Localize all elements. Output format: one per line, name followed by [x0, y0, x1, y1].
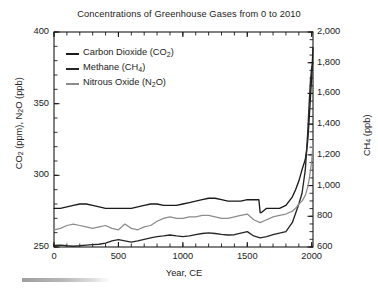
scan-artifact-bar [22, 278, 110, 282]
y-left-tick-label: 300 [9, 169, 49, 179]
y-right-tick-label: 2,000 [317, 26, 363, 36]
y-right-tick-label: 1,200 [317, 149, 363, 159]
legend-color-swatch [66, 53, 79, 55]
y-right-tick-label: 600 [317, 241, 363, 251]
y-left-tick-label: 250 [9, 241, 49, 251]
y-right-tick-label: 1,800 [317, 57, 363, 67]
y-axis-right-label: CH4 (ppb) [362, 80, 373, 190]
legend-item-label: Nitrous Oxide (N2O) [83, 77, 166, 88]
x-axis-label: Year, CE [54, 268, 314, 278]
x-tick-label: 2000 [292, 251, 332, 261]
x-tick-label: 1500 [227, 251, 267, 261]
y-right-tick-label: 1,400 [317, 118, 363, 128]
y-right-tick-label: 1,000 [317, 180, 363, 190]
legend-color-swatch [66, 83, 79, 85]
chart-title: Concentrations of Greenhouse Gases from … [0, 9, 378, 19]
legend-color-swatch [66, 68, 79, 70]
legend-item-label: Methane (CH4) [83, 62, 145, 73]
y-left-tick-label: 400 [9, 26, 49, 36]
legend-item-label: Carbon Dioxide (CO2) [83, 47, 174, 58]
y-right-tick-label: 1,600 [317, 87, 363, 97]
y-left-tick-label: 350 [9, 98, 49, 108]
x-tick-label: 500 [98, 251, 138, 261]
x-tick-label: 0 [34, 251, 74, 261]
x-tick-label: 1000 [163, 251, 203, 261]
y-right-tick-label: 800 [317, 210, 363, 220]
